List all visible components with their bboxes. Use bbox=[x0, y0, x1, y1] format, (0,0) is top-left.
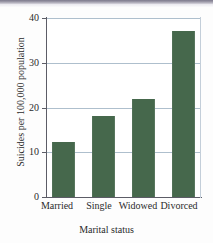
y-axis-line bbox=[46, 17, 47, 198]
y-tick-mark-10 bbox=[42, 152, 46, 153]
scan-edge-artifact-fade bbox=[0, 4, 213, 7]
y-tick-label-10: 10 bbox=[29, 147, 39, 157]
y-tick-mark-30 bbox=[42, 63, 46, 64]
bar-married bbox=[52, 142, 75, 197]
y-tick-label-30: 30 bbox=[29, 58, 39, 68]
y-tick-mark-0 bbox=[42, 197, 46, 198]
bar-divorced bbox=[172, 31, 195, 197]
gridline-40 bbox=[47, 18, 201, 19]
bar-single bbox=[92, 116, 115, 197]
bar-widowed bbox=[132, 99, 155, 197]
y-axis-title: Suicides per 100,000 population bbox=[15, 17, 27, 187]
y-tick-mark-20 bbox=[42, 108, 46, 109]
plot-area bbox=[47, 18, 201, 197]
x-tick-label-divorced: Divorced bbox=[148, 200, 210, 212]
y-tick-label-40: 40 bbox=[29, 13, 39, 23]
y-tick-mark-40 bbox=[42, 18, 46, 19]
x-axis-line bbox=[46, 197, 202, 198]
y-tick-label-20: 20 bbox=[29, 103, 39, 113]
x-axis-title: Marital status bbox=[0, 224, 213, 236]
bar-chart-figure: 40 30 20 10 0 Married Single Widowed Div… bbox=[0, 0, 213, 243]
plot-frame-right bbox=[200, 17, 201, 198]
